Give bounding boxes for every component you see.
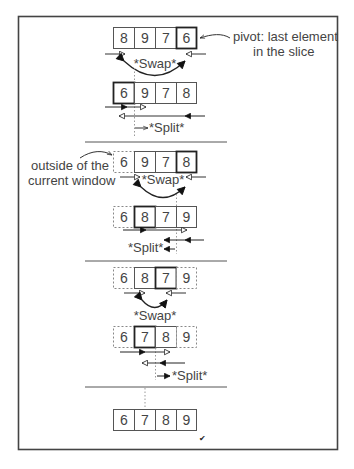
step2-array: 6 9 7 8 <box>114 83 197 104</box>
cell-value: 6 <box>120 412 128 428</box>
pivot-note: pivot: last element <box>233 29 338 44</box>
cell-value: 8 <box>141 270 149 286</box>
split-label: *Split* <box>149 120 184 135</box>
split-label: *Split* <box>172 368 207 383</box>
cell-value: 8 <box>120 30 128 46</box>
cell-value: 9 <box>183 412 191 428</box>
cell-value: 6 <box>120 85 128 101</box>
split-label: *Split* <box>128 240 163 255</box>
cell-value: 7 <box>162 85 170 101</box>
cell-value: 9 <box>183 270 191 286</box>
cell-value: 8 <box>162 329 170 345</box>
step6-array: 6 7 8 9 <box>114 327 197 348</box>
cell-value: 6 <box>120 270 128 286</box>
quicksort-diagram: 8 9 7 6 pivot: last element in the slice… <box>0 0 354 469</box>
step3-array: 6 9 7 8 <box>114 152 197 173</box>
step1-array: 8 9 7 6 <box>114 28 197 49</box>
swap-label: *Swap* <box>134 308 177 323</box>
diagram-frame <box>19 17 338 450</box>
outside-note: current window <box>28 173 116 188</box>
outside-note: outside of the <box>31 158 109 173</box>
step4-array: 6 8 7 9 <box>114 207 197 228</box>
cell-value: 7 <box>162 30 170 46</box>
cell-value: 9 <box>183 329 191 345</box>
cell-value: 7 <box>162 154 170 170</box>
cell-value: 7 <box>162 209 170 225</box>
cell-value: 8 <box>183 154 191 170</box>
cell-value: 9 <box>141 154 149 170</box>
cell-value: 9 <box>141 85 149 101</box>
final-array: 6 7 8 9 <box>114 410 197 431</box>
cell-value: 6 <box>120 209 128 225</box>
cell-value: 6 <box>183 30 191 46</box>
cell-value: 8 <box>162 412 170 428</box>
cell-value: 8 <box>141 209 149 225</box>
cell-value: 7 <box>141 329 149 345</box>
cell-value: 9 <box>141 30 149 46</box>
cell-value: 8 <box>183 85 191 101</box>
cell-value: 6 <box>120 329 128 345</box>
checkmark-icon: ✔ <box>199 434 206 443</box>
swap-label: *Swap* <box>142 172 185 187</box>
cell-value: 6 <box>120 154 128 170</box>
swap-label: *Swap* <box>134 56 177 71</box>
pivot-note: in the slice <box>253 44 314 59</box>
cell-value: 9 <box>183 209 191 225</box>
step5-array: 6 8 7 9 <box>114 268 197 289</box>
cell-value: 7 <box>162 270 170 286</box>
cell-value: 7 <box>141 412 149 428</box>
